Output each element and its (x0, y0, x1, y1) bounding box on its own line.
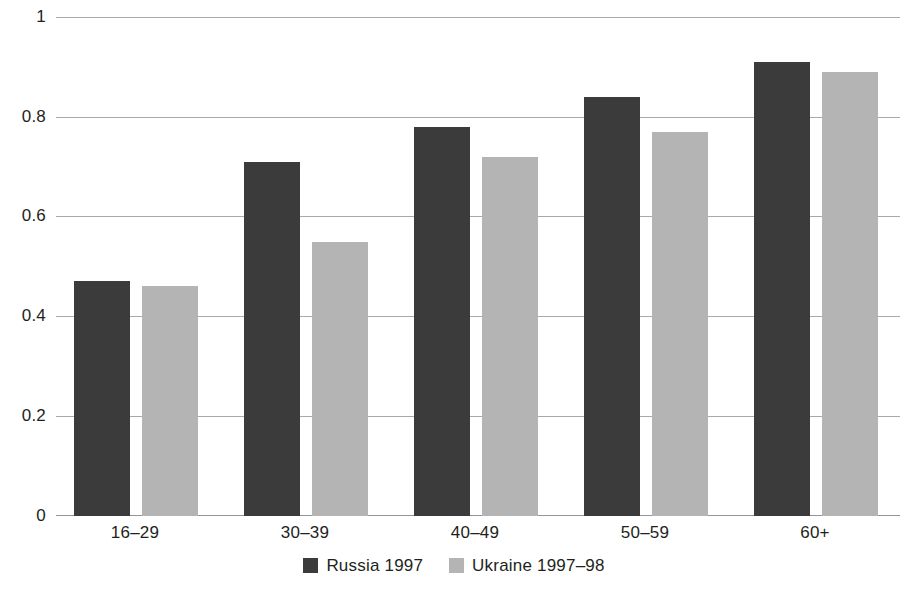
y-tick-label-0-6: 0.6 (2, 207, 46, 224)
bar-ukraine-16-29[interactable] (142, 286, 198, 516)
x-tick-label-60-plus: 60+ (750, 522, 880, 544)
bar-ukraine-60-plus[interactable] (822, 72, 878, 516)
bar-ukraine-40-49[interactable] (482, 157, 538, 516)
legend-swatch-icon-russia (303, 558, 318, 573)
x-axis-tick-labels: 16–29 30–39 40–49 50–59 60+ (56, 522, 900, 548)
y-tick-label-0-4: 0.4 (2, 307, 46, 324)
bar-russia-16-29[interactable] (74, 281, 130, 516)
bar-russia-50-59[interactable] (584, 97, 640, 516)
y-tick-label-0-8: 0.8 (2, 108, 46, 125)
bar-ukraine-50-59[interactable] (652, 132, 708, 516)
bar-russia-40-49[interactable] (414, 127, 470, 516)
y-tick-label-0-2: 0.2 (2, 407, 46, 424)
bar-chart: 1 0.8 0.6 0.4 0.2 0 16–29 30–39 40–49 50… (0, 0, 908, 596)
legend-label-ukraine: Ukraine 1997–98 (472, 556, 604, 575)
chart-legend: Russia 1997 Ukraine 1997–98 (0, 556, 908, 575)
x-tick-label-40-49: 40–49 (410, 522, 540, 544)
bar-ukraine-30-39[interactable] (312, 242, 368, 516)
legend-label-russia: Russia 1997 (326, 556, 423, 575)
legend-item-russia[interactable]: Russia 1997 (303, 556, 423, 575)
x-tick-label-30-39: 30–39 (240, 522, 370, 544)
y-tick-label-0: 0 (2, 507, 46, 524)
bars-layer (56, 17, 900, 516)
legend-swatch-icon-ukraine (449, 558, 464, 573)
x-tick-label-50-59: 50–59 (580, 522, 710, 544)
y-axis-tick-labels: 1 0.8 0.6 0.4 0.2 0 (0, 17, 46, 516)
bar-russia-60-plus[interactable] (754, 62, 810, 516)
legend-item-ukraine[interactable]: Ukraine 1997–98 (449, 556, 604, 575)
y-tick-label-1: 1 (2, 8, 46, 25)
x-tick-label-16-29: 16–29 (70, 522, 200, 544)
bar-russia-30-39[interactable] (244, 162, 300, 516)
